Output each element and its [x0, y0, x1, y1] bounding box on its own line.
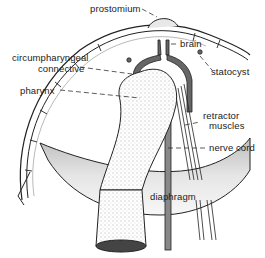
label-pharynx: pharynx — [20, 86, 55, 96]
label-circumpharyngeal-line1: circumpharyngeal — [12, 53, 89, 63]
gut-lumen — [96, 240, 146, 252]
retractor-muscles-shape — [175, 84, 216, 240]
diagram-canvas: prostomium brain circumpharyngeal connec… — [0, 0, 265, 258]
label-nerve-cord: nerve cord — [209, 143, 255, 153]
prostomium-shape — [148, 19, 178, 28]
label-prostomium: prostomium — [90, 4, 141, 14]
label-retractor-line2: muscles — [209, 121, 245, 131]
gut-tube-shape — [96, 190, 146, 246]
label-circumpharyngeal-line2: connective — [38, 64, 84, 74]
label-diaphragm: diaphragm — [150, 192, 196, 202]
label-brain: brain — [180, 39, 202, 49]
label-statocyst: statocyst — [211, 67, 249, 77]
